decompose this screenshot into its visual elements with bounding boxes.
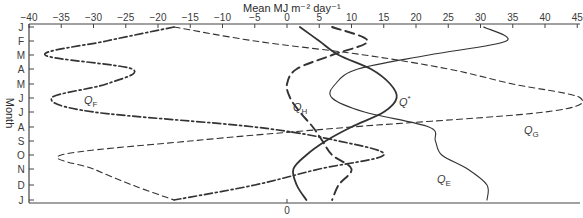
month-label: S [18,136,25,147]
y-axis-title: Month [4,98,16,129]
label-q-g: QG [524,124,539,139]
x-tick-label: 20 [410,12,422,23]
series-labels: QF QH Q* QG QE [84,94,539,188]
x-tick-label: −10 [214,12,231,23]
month-label: J [19,93,24,104]
month-label: A [18,122,25,133]
x-tick-label: 35 [507,12,519,23]
x-tick-label: 45 [572,12,583,23]
month-label: A [18,64,25,75]
month-label: J [19,22,24,33]
series-line-q- [293,27,397,200]
x-tick-label: 15 [378,12,390,23]
label-q-h: QH [293,101,308,116]
label-q-e: QE [437,173,451,188]
month-label: M [17,79,25,90]
x-tick-label: −15 [182,12,199,23]
month-label: O [17,150,25,161]
x-tick-label: 30 [475,12,487,23]
label-q-star: Q* [399,94,411,108]
label-q-f: QF [84,94,98,109]
month-label: J [19,107,24,118]
x-tick-label: −35 [53,12,70,23]
series-line-q-g [57,27,582,200]
month-label: F [18,36,24,47]
month-label: J [19,195,24,206]
x-tick-label: 5 [316,12,322,23]
x-tick-label: 40 [539,12,551,23]
bottom-zero-label: 0 [284,205,290,216]
energy-balance-chart: Mean MJ m⁻² day⁻¹ −40−35−30−25−20−15−10−… [0,0,583,218]
x-tick-label: 25 [443,12,455,23]
month-label: M [17,50,25,61]
x-tick-label: 10 [346,12,358,23]
month-label: D [17,180,24,191]
series-line-q-e [330,27,508,200]
x-tick-label: −5 [249,12,261,23]
month-label: N [17,164,24,175]
x-tick-label: 0 [284,12,290,23]
y-axis-months: JFMAMJJASONDJ [17,22,34,206]
x-axis-ticks: −40−35−30−25−20−15−10−505101520253035404… [21,12,583,28]
x-tick-label: −20 [150,12,167,23]
series-line-q-f [45,27,384,200]
x-tick-label: −30 [85,12,102,23]
series-lines [45,27,583,200]
x-tick-label: −25 [117,12,134,23]
